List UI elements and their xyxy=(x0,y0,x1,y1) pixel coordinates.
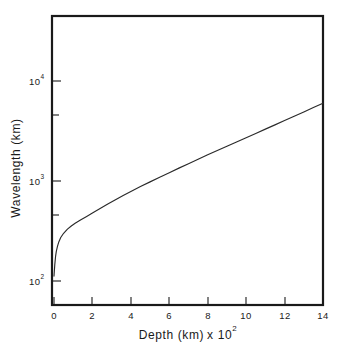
x-tick-label-6: 6 xyxy=(166,310,172,321)
x-axis-ticks xyxy=(54,297,323,305)
x-tick-label-10: 10 xyxy=(240,310,251,321)
wavelength-depth-curve xyxy=(54,103,323,276)
plot-svg: 104 103 102 Wavelength (km) 0 2 4 6 8 10… xyxy=(0,0,351,351)
x-axis-title-mult: x 10 xyxy=(207,328,232,342)
y-axis-tick-labels: 104 103 102 xyxy=(29,72,44,287)
y-tick-label-10e4: 104 xyxy=(29,72,44,87)
x-tick-label-2: 2 xyxy=(89,310,95,321)
x-tick-label-14: 14 xyxy=(317,310,328,321)
x-axis-tick-labels: 0 2 4 6 8 10 12 14 xyxy=(51,310,329,321)
y-tick-label-10e2: 102 xyxy=(29,272,44,287)
y-axis-title: Wavelength (km) xyxy=(9,118,23,217)
x-axis-title-exp: 2 xyxy=(232,324,237,333)
x-tick-label-0: 0 xyxy=(51,310,57,321)
x-tick-label-4: 4 xyxy=(128,310,134,321)
plot-frame xyxy=(52,16,323,305)
x-tick-label-12: 12 xyxy=(279,310,290,321)
y-tick-label-10e3: 103 xyxy=(29,172,44,187)
x-axis-title: Depth (km)x 102 xyxy=(139,324,238,343)
x-axis-title-main: Depth (km) xyxy=(139,328,204,342)
chart-figure: 104 103 102 Wavelength (km) 0 2 4 6 8 10… xyxy=(0,0,351,351)
x-tick-label-8: 8 xyxy=(205,310,211,321)
